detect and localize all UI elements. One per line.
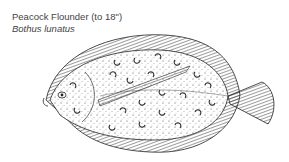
flounder-illustration xyxy=(0,0,289,162)
